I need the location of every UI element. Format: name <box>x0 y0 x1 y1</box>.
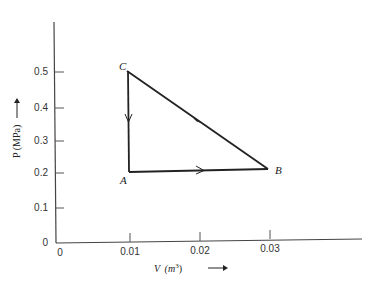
point-b-label: B <box>275 164 282 176</box>
svg-text:0.1: 0.1 <box>34 202 48 213</box>
svg-text:0: 0 <box>42 237 48 248</box>
svg-text:0.02: 0.02 <box>190 245 210 256</box>
pv-diagram: 0 0.1 0.2 0.3 0.4 0.5 0 0.01 0.02 0.03 C… <box>0 0 382 287</box>
y-axis-title: P (MPa) <box>11 98 23 158</box>
svg-text:V (m3): V (m3) <box>154 262 182 275</box>
x-axis-title: V (m3) <box>154 262 228 275</box>
svg-text:0.3: 0.3 <box>34 135 48 146</box>
svg-text:0.03: 0.03 <box>260 243 280 254</box>
svg-text:0.4: 0.4 <box>34 102 48 113</box>
svg-text:P (MPa): P (MPa) <box>11 125 23 158</box>
y-axis <box>54 22 56 243</box>
y-tick-labels: 0 0.1 0.2 0.3 0.4 0.5 <box>34 66 48 248</box>
cycle-path <box>125 71 268 174</box>
svg-text:0.5: 0.5 <box>34 66 48 77</box>
x-tick-labels: 0 0.01 0.02 0.03 <box>57 243 280 258</box>
point-c-label: C <box>119 60 127 72</box>
svg-text:0.2: 0.2 <box>34 167 48 178</box>
svg-text:0: 0 <box>57 247 63 258</box>
svg-text:0.01: 0.01 <box>120 246 140 257</box>
point-a-label: A <box>119 174 127 186</box>
x-axis <box>56 239 362 243</box>
arrow-right-icon <box>223 265 228 271</box>
arrow-up-icon <box>14 98 20 103</box>
y-ticks <box>55 72 64 208</box>
